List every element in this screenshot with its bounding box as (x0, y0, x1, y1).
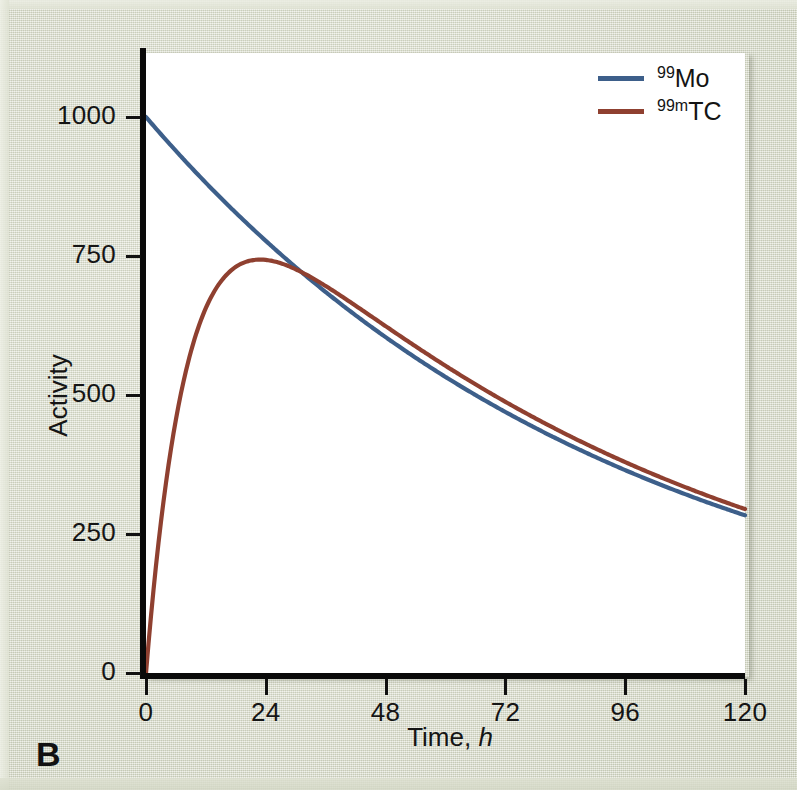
x-axis-label-unit: h (478, 722, 492, 752)
series-line-mo99 (146, 117, 745, 515)
y-tick-mark (126, 533, 141, 536)
legend-item: 99mTC (598, 95, 721, 128)
legend-label: 99mTC (657, 98, 721, 124)
x-tick-mark (504, 679, 507, 695)
y-tick-label: 0 (26, 656, 116, 687)
figure-panel: 02505007501000 024487296120 Activity Tim… (0, 0, 797, 790)
y-axis-line (140, 48, 146, 679)
x-tick-label: 0 (106, 697, 186, 728)
x-tick-label: 24 (226, 697, 306, 728)
legend-item: 99Mo (598, 62, 721, 95)
y-tick-label: 250 (26, 517, 116, 548)
y-tick-label: 1000 (26, 100, 116, 131)
y-tick-mark (126, 672, 141, 675)
x-tick-mark (385, 679, 388, 695)
x-tick-mark (744, 679, 747, 695)
x-tick-mark (265, 679, 268, 695)
x-tick-mark (145, 679, 148, 695)
legend-mass-number: 99 (657, 64, 675, 81)
x-tick-label: 120 (705, 697, 785, 728)
y-tick-mark (126, 116, 141, 119)
x-axis-line (140, 673, 745, 679)
legend-mass-number: 99m (657, 97, 688, 114)
x-axis-label: Time, h (300, 722, 600, 753)
y-axis-label: Activity (43, 316, 74, 476)
y-tick-label: 750 (26, 239, 116, 270)
panel-label: B (36, 735, 61, 774)
legend-color-swatch (598, 109, 644, 114)
y-tick-mark (126, 255, 141, 258)
x-tick-mark (624, 679, 627, 695)
x-axis-label-prefix: Time, (407, 722, 478, 752)
chart-legend: 99Mo99mTC (598, 62, 721, 128)
series-line-tc99m (146, 260, 745, 673)
legend-color-swatch (598, 76, 644, 81)
legend-label: 99Mo (657, 65, 710, 91)
y-tick-mark (126, 394, 141, 397)
